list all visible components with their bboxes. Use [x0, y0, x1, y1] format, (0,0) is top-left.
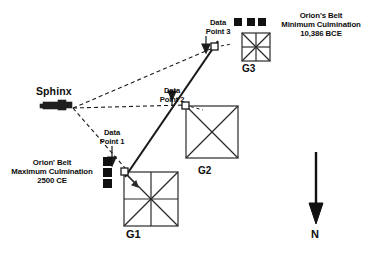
pyramid-g2-label: G2: [198, 165, 211, 177]
orion-belt-maximum-stars: [103, 157, 112, 188]
north-label: N: [311, 228, 319, 241]
orion-correlation-diagram: Sphinx Data Point 1 Data Point 2 Data Po…: [0, 0, 382, 253]
data-point-2-label: Data Point 2: [144, 87, 200, 105]
orion-belt-min-star-2: [247, 18, 255, 26]
maximum-culmination-annotation: Orion' Belt Maximum Culmination 2500 CE: [2, 158, 102, 186]
sightline-sphinx-to-data-point-2: [73, 105, 185, 108]
orion-belt-max-star-2: [103, 168, 112, 177]
pyramid-g1-corner-arrow-head: [132, 181, 138, 187]
data-point-3-marker: [211, 43, 218, 50]
sphinx-icon-tail: [40, 104, 44, 108]
north-arrow: [309, 152, 323, 224]
sphinx-icon-midsection: [58, 100, 66, 110]
north-arrow-head: [309, 203, 323, 224]
orion-belt-max-star-1: [103, 157, 112, 166]
sphinx-label: Sphinx: [36, 85, 72, 97]
sphinx-icon-body: [43, 102, 59, 109]
pyramid-g1-corner-arrow: [127, 175, 138, 187]
pyramid-g3-label: G3: [242, 63, 255, 75]
pyramid-g2: [186, 106, 238, 158]
pyramid-g1-label: G1: [126, 228, 140, 241]
sphinx-icon: [40, 100, 72, 110]
pyramid-alignment-axis: [125, 41, 218, 177]
minimum-culmination-annotation: Orion's Belt Minimum Culmination 10,386 …: [262, 11, 380, 39]
sphinx-icon-head: [66, 102, 72, 108]
data-point-1-label: Data Point 1: [84, 129, 140, 147]
data-point-1-marker: [121, 168, 128, 175]
data-point-3-label: Data Point 3: [192, 19, 244, 37]
orion-belt-max-star-3: [103, 179, 112, 188]
